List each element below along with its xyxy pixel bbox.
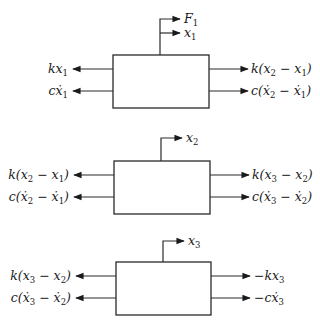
label-neg-cxdot3: −cẋ3 [254,290,284,307]
mass-1-box [113,55,209,108]
free-body-diagram: F1 x1 kx1 cẋ1 k(x2 − x1) c(ẋ2 − ẋ1) x2 k… [0,0,320,331]
mass-block-2: x2 k(x2 − x1) c(ẋ2 − ẋ1) k(x3 − x2) c(ẋ3… [8,130,313,214]
label-x2: x2 [186,130,198,147]
label-k-x3-minus-x2: k(x3 − x2) [10,268,71,285]
mass-block-1: F1 x1 kx1 cẋ1 k(x2 − x1) c(ẋ2 − ẋ1) [48,11,312,108]
force-arrow-f1 [160,19,180,55]
label-c-xdot3-minus-xdot2: c(ẋ3 − ẋ2) [11,290,71,307]
mass-2-box [114,161,210,214]
mass-3-box [116,262,211,315]
label-k-x3-minus-x2: k(x3 − x2) [252,167,313,184]
label-k-x2-minus-x1: k(x2 − x1) [251,61,312,78]
label-c-xdot2-minus-xdot1: c(ẋ2 − ẋ1) [251,83,311,100]
displacement-arrow-x2 [161,138,182,161]
label-cxdot1: cẋ1 [49,83,68,100]
label-kx1: kx1 [48,61,68,78]
label-neg-kx3: −kx3 [254,268,285,285]
label-x3: x3 [188,233,200,250]
label-c-xdot2-minus-xdot1: c(ẋ2 − ẋ1) [9,189,69,206]
mass-block-3: x3 k(x3 − x2) c(ẋ3 − ẋ2) −kx3 −cẋ3 [10,233,284,315]
label-c-xdot3-minus-xdot2: c(ẋ3 − ẋ2) [252,189,312,206]
displacement-arrow-x3 [163,241,184,262]
label-k-x2-minus-x1: k(x2 − x1) [8,167,69,184]
